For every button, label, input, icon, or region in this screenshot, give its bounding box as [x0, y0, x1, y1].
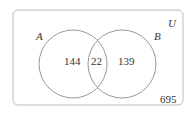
set-b-only-count: 139 — [118, 55, 135, 67]
outside-count: 695 — [160, 93, 177, 105]
set-a-only-count: 144 — [64, 55, 81, 67]
venn-diagram: U A B 144 22 139 695 — [0, 0, 187, 117]
set-b-label: B — [154, 30, 161, 42]
universe-label: U — [168, 17, 177, 29]
intersection-count: 22 — [91, 55, 102, 67]
set-a-label: A — [35, 30, 43, 42]
